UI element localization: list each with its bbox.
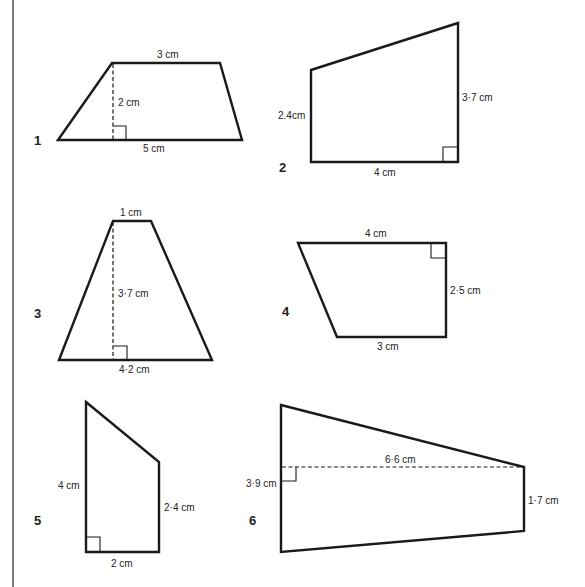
- figure-6: 6 6·6 cm 3·9 cm 1·7 cm: [246, 405, 559, 552]
- figures-canvas: 1 3 cm 2 cm 5 cm 2 2.4cm 3·7 cm 4 cm 3 1…: [0, 0, 585, 587]
- figure-1-right-angle-icon: [113, 126, 126, 140]
- figure-5: 5 4 cm 2·4 cm 2 cm: [34, 402, 195, 569]
- figure-2-right-label: 3·7 cm: [462, 92, 493, 103]
- figure-5-left-label: 4 cm: [58, 480, 80, 491]
- figure-4-right-angle-icon: [431, 243, 446, 258]
- figure-1: 1 3 cm 2 cm 5 cm: [34, 49, 242, 154]
- figure-5-bottom-label: 2 cm: [111, 558, 133, 569]
- figure-6-width-label: 6·6 cm: [385, 454, 416, 465]
- figure-4-right-label: 2·5 cm: [450, 285, 481, 296]
- figure-6-number: 6: [249, 513, 256, 528]
- figure-2-outline: [311, 23, 458, 162]
- figure-5-right-angle-icon: [86, 537, 100, 552]
- figure-1-height-label: 2 cm: [118, 97, 140, 108]
- figure-2-bottom-label: 4 cm: [374, 167, 396, 178]
- figure-6-left-label: 3·9 cm: [246, 478, 277, 489]
- figure-3-number: 3: [34, 306, 41, 321]
- figure-2-right-angle-icon: [443, 147, 458, 162]
- figure-4-bottom-label: 3 cm: [377, 341, 399, 352]
- figure-4-number: 4: [282, 304, 290, 319]
- figure-4: 4 4 cm 2·5 cm 3 cm: [282, 228, 481, 352]
- figure-2-number: 2: [279, 160, 286, 175]
- figure-4-top-label: 4 cm: [365, 228, 387, 239]
- figure-4-outline: [298, 243, 446, 337]
- figure-3: 3 1 cm 3·7 cm 4·2 cm: [34, 207, 212, 375]
- figure-5-number: 5: [34, 513, 41, 528]
- figure-2: 2 2.4cm 3·7 cm 4 cm: [278, 23, 493, 178]
- figure-3-height-label: 3·7 cm: [118, 288, 149, 299]
- figure-1-number: 1: [34, 133, 41, 148]
- figure-3-right-angle-icon: [113, 346, 127, 360]
- figure-1-bottom-label: 5 cm: [143, 143, 165, 154]
- figure-2-left-label: 2.4cm: [278, 110, 305, 121]
- figure-5-outline: [86, 402, 159, 552]
- figure-6-outline: [281, 405, 524, 552]
- figure-3-bottom-label: 4·2 cm: [119, 364, 150, 375]
- figure-6-right-label: 1·7 cm: [528, 495, 559, 506]
- figure-3-top-label: 1 cm: [120, 207, 142, 218]
- figure-1-outline: [58, 63, 242, 140]
- figure-1-top-label: 3 cm: [157, 49, 179, 60]
- figure-5-right-label: 2·4 cm: [164, 502, 195, 513]
- figure-6-right-angle-icon: [281, 467, 296, 481]
